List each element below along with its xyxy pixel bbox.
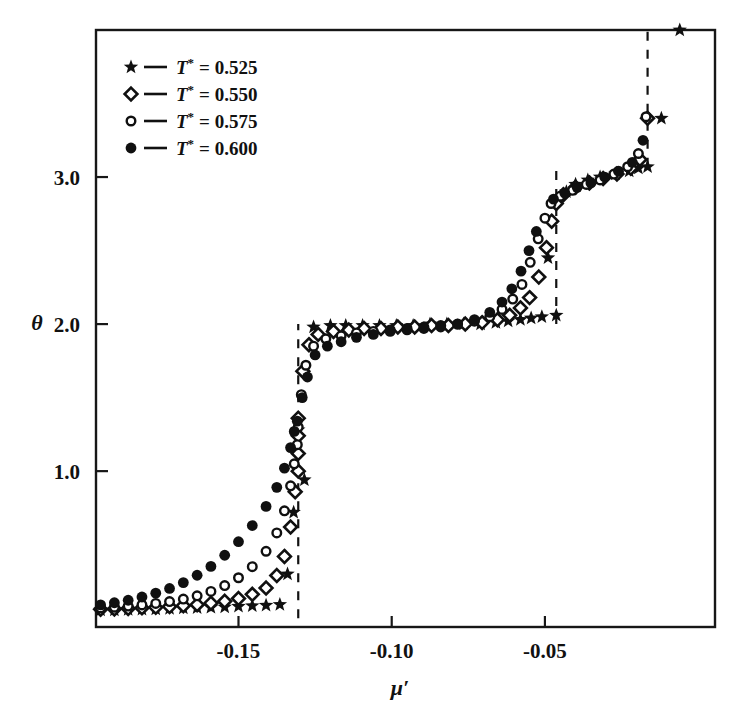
scatter-plot: -0.15-0.10-0.051.02.03.0 θ μ′ T*= 0.525T… (0, 0, 737, 715)
data-point-open-circle-small (272, 529, 281, 538)
data-point-filled-circle (336, 336, 347, 347)
data-point-filled-circle (164, 583, 175, 594)
y-tick-label: 3.0 (54, 166, 80, 190)
data-point-filled-circle (219, 550, 230, 561)
axis-tick-marks (96, 177, 545, 627)
data-point-open-circle-small (179, 595, 188, 604)
data-point-open-circle-small (642, 112, 651, 121)
data-point-filled-star (524, 311, 538, 325)
data-point-filled-circle (285, 442, 296, 453)
data-point-open-circle-small (518, 280, 527, 289)
data-point-filled-circle (613, 166, 624, 177)
legend-marker-filled-circle (126, 143, 137, 154)
data-point-filled-circle (385, 326, 396, 337)
legend: T*= 0.525T*= 0.550T*= 0.575T*= 0.600 (124, 55, 258, 159)
data-point-open-diamond (523, 291, 536, 304)
data-point-filled-circle (418, 323, 429, 334)
data-point-open-circle-small (280, 507, 289, 516)
data-point-open-diamond (246, 588, 259, 601)
data-point-filled-circle (279, 463, 290, 474)
legend-marker-open-circle-small (127, 117, 136, 126)
data-point-filled-circle (585, 178, 596, 189)
data-point-filled-circle (531, 226, 542, 237)
data-point-open-diamond (532, 271, 545, 284)
data-point-open-circle-small (165, 597, 174, 606)
legend-item-2[interactable]: T*= 0.575 (127, 109, 258, 132)
legend-marker-filled-star (124, 59, 138, 73)
data-point-filled-circle (559, 188, 570, 199)
figure-container: -0.15-0.10-0.051.02.03.0 θ μ′ T*= 0.525T… (0, 0, 737, 715)
data-point-filled-circle (292, 416, 303, 427)
legend-item-0[interactable]: T*= 0.525 (124, 55, 258, 78)
data-point-open-diamond (278, 550, 291, 563)
data-point-filled-circle (206, 561, 217, 572)
data-point-open-circle-small (248, 562, 257, 571)
data-point-filled-circle (599, 172, 610, 183)
data-point-filled-star (673, 22, 687, 36)
data-point-filled-circle (297, 392, 308, 403)
data-point-filled-circle (271, 482, 282, 493)
y-axis-title: θ (31, 310, 43, 335)
data-point-filled-star (273, 597, 287, 611)
data-point-filled-circle (178, 577, 189, 588)
legend-item-1[interactable]: T*= 0.550 (125, 82, 258, 105)
data-point-open-diamond (260, 582, 273, 595)
data-point-open-diamond (232, 592, 245, 605)
data-point-open-circle-small (220, 581, 229, 590)
data-point-filled-circle (261, 501, 272, 512)
data-point-open-circle-small (262, 547, 271, 556)
legend-label: T*= 0.525 (176, 55, 257, 78)
data-point-open-diamond (540, 241, 553, 254)
x-tick-label: -0.15 (217, 639, 261, 663)
data-point-filled-circle (302, 372, 313, 383)
data-point-open-circle-small (286, 482, 295, 491)
data-point-open-circle-small (634, 149, 643, 158)
y-tick-label: 1.0 (54, 460, 80, 484)
data-point-filled-circle (247, 520, 258, 531)
data-point-open-circle-small (302, 361, 311, 370)
data-point-filled-star (535, 309, 549, 323)
x-axis-title: μ′ (390, 675, 409, 700)
data-point-filled-circle (638, 135, 649, 146)
data-point-filled-circle (484, 307, 495, 318)
data-point-filled-circle (368, 329, 379, 340)
data-point-filled-circle (506, 283, 517, 294)
data-point-filled-circle (192, 570, 203, 581)
data-point-filled-circle (137, 592, 148, 603)
data-point-filled-circle (497, 297, 508, 308)
legend-label: T*= 0.600 (176, 136, 257, 159)
data-point-filled-circle (524, 245, 535, 256)
data-point-open-circle-small (309, 342, 318, 351)
data-point-filled-circle (95, 600, 106, 611)
data-point-filled-circle (572, 182, 583, 193)
data-point-filled-circle (150, 588, 161, 599)
data-point-filled-circle (109, 597, 120, 608)
data-point-open-circle-small (234, 573, 243, 582)
legend-label: T*= 0.575 (176, 109, 257, 132)
x-tick-label: -0.05 (523, 639, 567, 663)
data-point-filled-circle (469, 314, 480, 325)
y-tick-label: 2.0 (54, 313, 80, 337)
data-point-filled-circle (516, 266, 527, 277)
x-tick-label: -0.10 (370, 639, 414, 663)
series-3-markers (95, 135, 648, 610)
data-point-filled-circle (289, 426, 300, 437)
data-point-open-circle-small (508, 295, 517, 304)
data-point-open-circle-small (207, 587, 216, 596)
legend-item-3[interactable]: T*= 0.600 (126, 136, 258, 159)
data-point-open-diamond (284, 521, 297, 534)
data-point-filled-circle (548, 194, 559, 205)
legend-marker-open-diamond (125, 88, 138, 101)
data-point-filled-circle (351, 332, 362, 343)
data-point-filled-circle (233, 536, 244, 547)
data-point-filled-circle (452, 319, 463, 330)
data-point-filled-circle (402, 325, 413, 336)
data-point-filled-circle (123, 595, 134, 606)
data-point-open-diamond (205, 597, 218, 610)
data-point-open-circle-small (193, 592, 202, 601)
data-point-open-circle-small (151, 599, 160, 608)
data-point-open-diamond (270, 569, 283, 582)
data-point-open-circle-small (541, 214, 550, 223)
data-point-filled-star (259, 598, 273, 612)
axis-tick-labels: -0.15-0.10-0.051.02.03.0 (54, 166, 567, 663)
